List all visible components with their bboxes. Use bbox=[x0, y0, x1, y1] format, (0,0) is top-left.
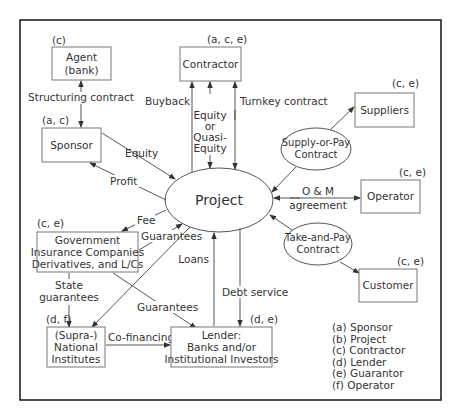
government-roles: (c, e) bbox=[37, 217, 64, 229]
edge-guarantees-gov: Guarantees bbox=[141, 230, 202, 242]
take-arrow-to-customer bbox=[340, 262, 359, 273]
edge-loans: Loans bbox=[178, 253, 209, 265]
node-customer: (c, e) Customer bbox=[359, 255, 424, 302]
lender-label-3: Institutional Investors bbox=[164, 353, 278, 365]
operator-label: Operator bbox=[367, 190, 415, 202]
lender-label-2: Banks and/or bbox=[187, 341, 257, 353]
customer-roles: (c, e) bbox=[397, 255, 424, 267]
supply-or-pay-label-1: Supply-or-Pay bbox=[282, 137, 351, 148]
node-government: (c, e) Government Insurance Companies De… bbox=[31, 217, 144, 272]
lender-label-1: Lender: bbox=[202, 329, 242, 341]
contract-take-and-pay: Take-and-Pay Contract bbox=[284, 223, 352, 265]
suppliers-label: Suppliers bbox=[360, 104, 409, 116]
project-label: Project bbox=[195, 192, 243, 208]
supranational-label-3: Institutes bbox=[51, 353, 100, 365]
take-and-pay-label-2: Contract bbox=[296, 244, 339, 255]
agent-label-2: (bank) bbox=[64, 64, 98, 76]
node-lender: (d, e) Lender: Banks and/or Institutiona… bbox=[164, 313, 278, 367]
node-suppliers: (c, e) Suppliers bbox=[355, 77, 419, 127]
suppliers-roles: (c, e) bbox=[392, 77, 419, 89]
supply-arrow-to-suppliers bbox=[330, 107, 354, 130]
supranational-label-2: National bbox=[54, 341, 98, 353]
operator-roles: (c, e) bbox=[399, 166, 426, 178]
edge-debt-service: Debt service bbox=[222, 286, 288, 298]
edge-state-guarantees-2: guarantees bbox=[39, 291, 99, 303]
government-label-3: Derivatives, and L/Cs bbox=[32, 258, 144, 270]
node-sponsor: (a, c) Sponsor bbox=[42, 114, 101, 162]
edge-structuring-contract: Structuring contract bbox=[28, 91, 134, 103]
node-supranational: (d, f) (Supra-) National Institutes bbox=[46, 313, 105, 367]
legend-item-d: (d) Lender bbox=[332, 356, 387, 368]
edge-buyback: Buyback bbox=[145, 95, 191, 107]
customer-label: Customer bbox=[362, 279, 414, 291]
legend-item-a: (a) Sponsor bbox=[332, 321, 393, 333]
supply-arrow-to-project bbox=[272, 167, 296, 192]
edge-profit: Profit bbox=[110, 175, 137, 187]
edge-om-2: agreement bbox=[289, 199, 347, 211]
legend: (a) Sponsor (b) Project (c) Contractor (… bbox=[332, 321, 406, 391]
edge-state-guarantees-1: State bbox=[55, 279, 83, 291]
agent-roles: (c) bbox=[52, 34, 66, 46]
legend-item-b: (b) Project bbox=[332, 333, 386, 345]
sponsor-roles: (a, c) bbox=[42, 114, 69, 126]
sponsor-label: Sponsor bbox=[50, 139, 93, 151]
supranational-roles: (d, f) bbox=[46, 313, 71, 325]
node-project: Project bbox=[165, 168, 273, 232]
lender-roles: (d, e) bbox=[250, 313, 278, 325]
edge-equity-quasi-4: Equity bbox=[193, 142, 226, 154]
legend-item-c: (c) Contractor bbox=[332, 344, 406, 356]
legend-item-f: (f) Operator bbox=[332, 379, 395, 391]
edge-turnkey: Turnkey contract bbox=[239, 95, 328, 107]
project-finance-diagram: (c) Agent (bank) Structuring contract (a… bbox=[0, 0, 454, 416]
government-label-1: Government bbox=[55, 234, 120, 246]
edge-co-financing: Co-financing bbox=[108, 331, 174, 343]
node-contractor: (a, c, e) Contractor bbox=[180, 33, 247, 81]
edge-guarantees-lender: Guarantees bbox=[137, 301, 198, 313]
edge-om-1: O & M bbox=[302, 185, 334, 197]
node-operator: (c, e) Operator bbox=[361, 166, 426, 213]
edge-equity: Equity bbox=[125, 147, 158, 159]
government-label-2: Insurance Companies bbox=[31, 246, 144, 258]
edge-fee: Fee bbox=[137, 214, 155, 226]
node-agent: (c) Agent (bank) bbox=[52, 34, 111, 80]
contract-supply-or-pay: Supply-or-Pay Contract bbox=[281, 128, 351, 170]
supply-or-pay-label-2: Contract bbox=[294, 149, 337, 160]
agent-label-1: Agent bbox=[66, 51, 97, 63]
contractor-label: Contractor bbox=[183, 58, 240, 70]
supranational-label-1: (Supra-) bbox=[55, 329, 98, 341]
contractor-roles: (a, c, e) bbox=[207, 33, 247, 45]
take-and-pay-label-1: Take-and-Pay bbox=[284, 232, 351, 243]
legend-item-e: (e) Guarantor bbox=[332, 367, 404, 379]
